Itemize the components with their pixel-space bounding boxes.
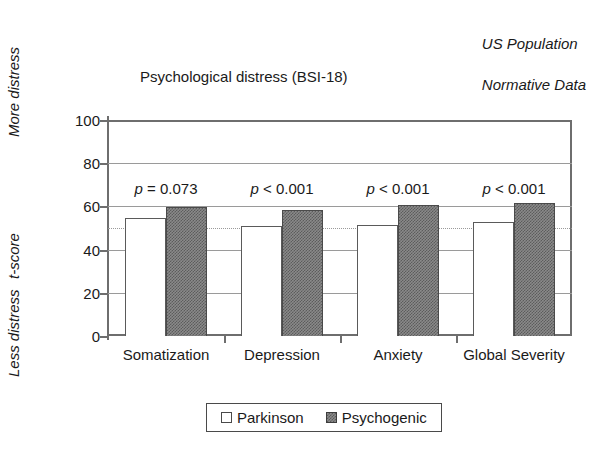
bar-psychogenic-anxiety [398,205,439,336]
normative-data-line-1: US Population [482,34,586,54]
x-tick-1 [224,336,226,343]
normative-data-line-2: Normative Data [482,75,586,95]
bar-psychogenic-depression [282,210,323,336]
y-tick-label-20: 20 [62,284,100,301]
y-tick-40 [100,250,107,252]
legend-label-psychogenic: Psychogenic [342,409,427,426]
category-label-anxiety: Anxiety [373,346,422,363]
axis-caption-t-score: t-score [5,233,22,279]
category-label-somatization: Somatization [123,346,210,363]
axis-caption-less-distress: Less distress [5,289,22,377]
category-label-depression: Depression [244,346,320,363]
y-tick-label-100: 100 [62,112,100,129]
bar-psychogenic-global-severity [514,203,555,336]
x-tick-3 [456,336,458,343]
p-value-depression: p < 0.001 [251,180,314,197]
category-label-global-severity: Global Severity [463,346,565,363]
bar-parkinson-global-severity [473,222,514,336]
y-tick-60 [100,206,107,208]
p-value-global-severity: p < 0.001 [483,180,546,197]
bar-parkinson-somatization [125,218,166,336]
bar-psychogenic-somatization [166,207,207,336]
legend-item-parkinson[interactable]: Parkinson [221,409,304,426]
axis-caption-more-distress: More distress [5,47,22,137]
plot-area: 020406080100 [108,120,572,336]
y-tick-20 [100,293,107,295]
gridline-80 [108,163,572,164]
y-tick-80 [100,163,107,165]
y-tick-label-0: 0 [62,328,100,345]
legend-swatch-parkinson [221,412,232,423]
y-tick-label-60: 60 [62,198,100,215]
y-tick-label-40: 40 [62,241,100,258]
legend-swatch-psychogenic [326,412,337,423]
normative-data-annotation: US Population Normative Data [482,14,586,115]
legend-label-parkinson: Parkinson [237,409,304,426]
chart-title: Psychological distress (BSI-18) [140,68,348,85]
y-tick-0 [100,336,107,338]
legend-item-psychogenic[interactable]: Psychogenic [326,409,427,426]
p-value-somatization: p = 0.073 [135,180,198,197]
y-tick-100 [100,120,107,122]
x-tick-2 [340,336,342,343]
p-value-anxiety: p < 0.001 [367,180,430,197]
y-tick-label-80: 80 [62,155,100,172]
bar-parkinson-depression [241,226,282,336]
chart-legend: Parkinson Psychogenic [206,403,442,432]
axis-top-line [108,120,572,122]
bar-parkinson-anxiety [357,225,398,336]
